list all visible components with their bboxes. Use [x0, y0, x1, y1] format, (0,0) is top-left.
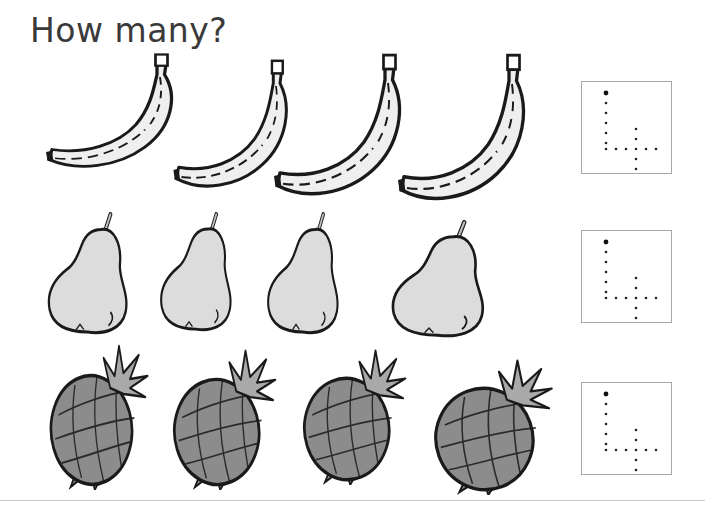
pear-icon — [385, 220, 495, 340]
dotted-digit-tracing — [582, 82, 673, 175]
banana-answer-box[interactable] — [581, 81, 672, 174]
pineapple-icon — [295, 345, 410, 485]
dotted-digit-tracing — [582, 231, 673, 324]
pineapple-answer-box[interactable] — [581, 382, 672, 475]
pear-answer-box[interactable] — [581, 230, 672, 323]
dotted-digit-tracing — [582, 383, 673, 476]
banana-icon — [392, 52, 542, 212]
pineapple-icon — [165, 345, 280, 490]
pear-icon — [262, 212, 347, 337]
pineapple-icon — [42, 340, 152, 490]
pear-icon — [155, 212, 240, 334]
pear-icon — [42, 212, 137, 337]
bottom-divider — [0, 500, 705, 501]
pineapple-icon — [425, 355, 557, 495]
worksheet-title: How many? — [30, 14, 227, 47]
